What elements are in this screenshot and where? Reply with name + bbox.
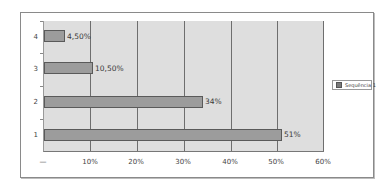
x-tick-label-0: — [28,157,58,167]
y-tick-label-4: 4 [28,32,38,42]
y-tick-label-2: 2 [28,97,38,107]
bar-category-2 [44,96,203,108]
chart-legend: Sequência 1 [332,80,372,90]
y-tick-mark [40,86,43,87]
x-tick-label-10: 10% [75,157,105,167]
y-tick-mark [40,53,43,54]
x-tick-label-20: 20% [121,157,151,167]
x-tick-label-30: 30% [168,157,198,167]
gridline-60 [323,21,324,151]
y-tick-label-1: 1 [28,130,38,140]
x-tick-label-40: 40% [215,157,245,167]
y-tick-label-3: 3 [28,64,38,74]
bar-category-4 [44,30,65,42]
bar-value-label-3: 10,50% [95,64,124,74]
y-tick-mark [40,21,43,22]
y-tick-mark [40,119,43,120]
bar-value-label-2: 34% [205,97,222,107]
x-tick-label-50: 50% [261,157,291,167]
bar-category-3 [44,62,93,74]
bar-category-1 [44,129,282,141]
x-tick-label-60: 60% [308,157,338,167]
legend-label: Sequência 1 [345,82,376,88]
bar-value-label-4: 4,50% [67,32,91,42]
bar-value-label-1: 51% [284,130,301,140]
legend-swatch-icon [336,82,342,88]
